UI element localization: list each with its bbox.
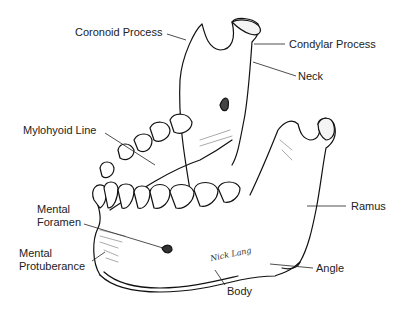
label-mylohyoid-line: Mylohyoid Line bbox=[23, 124, 96, 137]
label-condylar-process: Condylar Process bbox=[289, 38, 376, 51]
label-ramus: Ramus bbox=[351, 200, 386, 213]
label-mental-foramen-line2: Foramen bbox=[37, 216, 81, 229]
far-ramus bbox=[180, 18, 260, 190]
label-neck: Neck bbox=[298, 70, 323, 83]
mandible-diagram: Coronoid Process Condylar Process Neck M… bbox=[0, 0, 403, 310]
chin bbox=[94, 200, 100, 275]
label-mental-foramen-line1: Mental bbox=[37, 203, 70, 216]
label-mental-protuberance-line1: Mental bbox=[19, 247, 52, 260]
label-coronoid-process: Coronoid Process bbox=[75, 26, 162, 39]
body-border bbox=[100, 262, 300, 292]
label-angle: Angle bbox=[316, 262, 344, 275]
label-body: Body bbox=[227, 285, 252, 298]
near-ramus bbox=[250, 118, 335, 268]
label-mental-protuberance-line2: Protuberance bbox=[19, 260, 85, 273]
